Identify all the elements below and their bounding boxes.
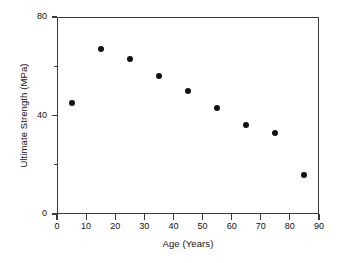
data-point-marker [214, 105, 220, 111]
y-axis-tick-label: 40 [21, 110, 47, 120]
x-axis-tick [289, 214, 290, 220]
x-axis-tick [173, 214, 174, 220]
data-point-marker [301, 172, 307, 178]
x-axis-tick-label: 60 [217, 221, 247, 231]
x-axis-tick-label: 0 [42, 221, 72, 231]
x-axis-tick [56, 214, 57, 220]
data-point-marker [185, 88, 191, 94]
y-axis-tick-label: 0 [21, 208, 47, 218]
x-axis-tick [318, 214, 319, 220]
data-point-marker [272, 130, 278, 136]
scatter-chart-figure: Ultimate Strength (MPa) Age (Years) 0102… [0, 0, 345, 263]
x-axis-tick [144, 214, 145, 220]
x-axis-tick-label: 10 [71, 221, 101, 231]
data-point-marker [98, 46, 104, 52]
data-point-marker [69, 100, 75, 106]
x-axis-tick [86, 214, 87, 220]
x-axis-tick [115, 214, 116, 220]
x-axis-tick-label: 50 [188, 221, 218, 231]
x-axis-tick [231, 214, 232, 220]
y-axis-tick [52, 115, 58, 116]
x-axis-tick [202, 214, 203, 220]
x-axis-title: Age (Years) [57, 238, 319, 249]
plot-data-area [57, 17, 319, 214]
x-axis-tick-label: 30 [129, 221, 159, 231]
x-axis-tick-label: 80 [275, 221, 305, 231]
x-axis-tick-label: 20 [100, 221, 130, 231]
y-axis-tick [52, 16, 58, 17]
data-point-marker [243, 122, 249, 128]
data-point-marker [156, 73, 162, 79]
y-axis-minor-tick [54, 66, 58, 67]
y-axis-tick [52, 213, 58, 214]
x-axis-tick-label: 40 [158, 221, 188, 231]
y-axis-tick-label: 80 [21, 11, 47, 21]
data-point-marker [127, 56, 133, 62]
x-axis-tick-label: 90 [304, 221, 334, 231]
x-axis-tick-label: 70 [246, 221, 276, 231]
y-axis-minor-tick [54, 164, 58, 165]
x-axis-tick [260, 214, 261, 220]
